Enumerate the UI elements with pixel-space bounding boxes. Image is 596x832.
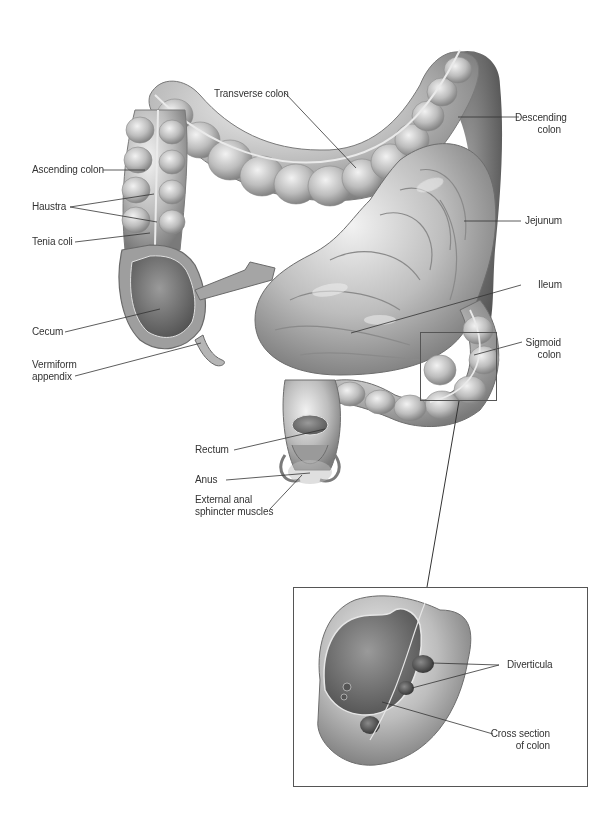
label-transverse-colon: Transverse colon	[214, 88, 289, 100]
label-external-anal-sphincter: External anal sphincter muscles	[195, 494, 273, 518]
label-anus: Anus	[195, 474, 217, 486]
label-tenia-coli: Tenia coli	[32, 236, 73, 248]
label-diverticula: Diverticula	[507, 659, 553, 671]
label-cross-section: Cross section of colon	[490, 728, 550, 752]
cecum	[119, 245, 275, 349]
ascending-colon	[122, 110, 187, 250]
label-jejunum: Jejunum	[525, 215, 562, 227]
label-sigmoid-colon: Sigmoid colon	[518, 337, 561, 361]
zoom-connector-line	[427, 401, 459, 587]
label-haustra: Haustra	[32, 201, 66, 213]
label-cecum: Cecum	[32, 326, 63, 338]
sigmoid-zoom-box	[420, 332, 497, 401]
label-descending-colon: Descending colon	[515, 112, 561, 136]
label-ascending-colon: Ascending colon	[32, 164, 104, 176]
label-vermiform-appendix: Vermiform appendix	[32, 359, 77, 383]
label-ileum: Ileum	[538, 279, 562, 291]
diverticula-inset-frame	[293, 587, 588, 787]
label-rectum: Rectum	[195, 444, 229, 456]
vermiform-appendix	[195, 335, 224, 366]
